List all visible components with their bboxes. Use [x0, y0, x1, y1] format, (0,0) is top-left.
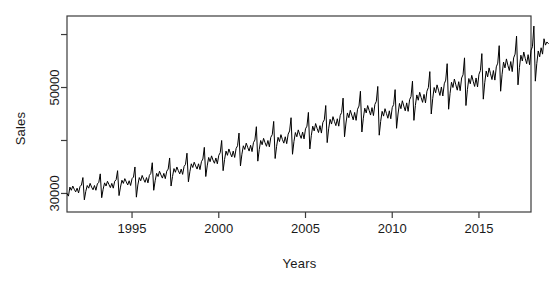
axes — [61, 16, 531, 218]
x-tick-label-2010: 2010 — [378, 221, 407, 236]
x-axis-title: Years — [67, 256, 532, 271]
x-tick-label-2015: 2015 — [465, 221, 494, 236]
y-tick-label-50000: 50000 — [48, 69, 63, 105]
x-tick-label-2005: 2005 — [291, 221, 320, 236]
x-tick-label-1995: 1995 — [118, 221, 147, 236]
plot-area: 300005000019952000200520102015 — [0, 0, 550, 283]
chart-figure: Sales 300005000019952000200520102015 Yea… — [0, 0, 550, 283]
y-tick-label-30000: 30000 — [48, 175, 63, 211]
plot-box-border — [67, 16, 531, 212]
series-line-sales — [67, 26, 548, 200]
data-series-line — [67, 26, 548, 200]
x-tick-label-2000: 2000 — [204, 221, 233, 236]
